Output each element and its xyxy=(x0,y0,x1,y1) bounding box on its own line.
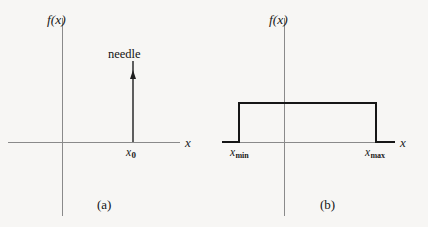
panel-a-y-axis xyxy=(62,18,63,216)
pulse-right-edge xyxy=(375,102,377,143)
panel-b-x-axis-label: x xyxy=(400,136,406,149)
x0-subscript: 0 xyxy=(131,150,136,160)
xmax-subscript: max xyxy=(370,151,385,160)
pulse-right-baseline xyxy=(375,141,395,143)
panel-a: f(x) x needle x0 (a) xyxy=(0,0,214,227)
panel-a-x-axis-label: x xyxy=(185,136,191,149)
xmin-subscript: min xyxy=(235,151,248,160)
needle-arrowhead xyxy=(130,70,136,79)
needle-label: needle xyxy=(108,48,141,61)
panel-b-xmin-label: xmin xyxy=(230,147,248,159)
pulse-top xyxy=(238,102,377,104)
panel-a-y-axis-label: f(x) xyxy=(47,13,66,27)
panel-a-x0-label: x0 xyxy=(126,147,136,159)
panel-b-y-axis xyxy=(284,18,285,216)
panel-b: f(x) x xmin xmax (b) xyxy=(214,0,428,227)
panel-b-subcaption: (b) xyxy=(320,198,335,211)
panel-a-x-axis xyxy=(8,142,180,143)
pulse-left-edge xyxy=(238,102,240,143)
panel-a-subcaption: (a) xyxy=(97,198,111,211)
panel-b-xmax-label: xmax xyxy=(365,147,385,159)
panel-b-y-axis-label: f(x) xyxy=(269,13,288,27)
panel-b-x-axis xyxy=(222,142,395,143)
figure-container: f(x) x needle x0 (a) f(x) x xmin xmax (b… xyxy=(0,0,428,227)
